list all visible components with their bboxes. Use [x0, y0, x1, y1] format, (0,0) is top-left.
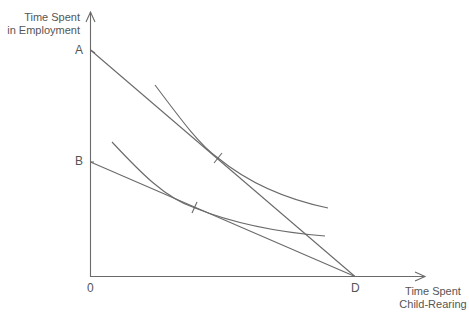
indifference-curve-upper: [155, 85, 328, 208]
origin-label: 0: [87, 282, 94, 295]
point-label-a: A: [75, 44, 83, 57]
indifference-curve-diagram: Time Spent in Employment A B 0 D Time Sp…: [0, 0, 469, 319]
y-axis-label: Time Spent in Employment: [4, 11, 80, 37]
x-axis-label-line1: Time Spent: [398, 285, 468, 298]
diagram-canvas: [0, 0, 469, 319]
budget-line-bd: [91, 162, 356, 277]
y-axis-label-line2: in Employment: [4, 24, 80, 37]
point-label-b: B: [75, 155, 83, 168]
indifference-curve-lower: [112, 142, 325, 236]
x-axis-label-line2: Child-Rearing: [398, 298, 468, 311]
budget-line-ad: [91, 50, 356, 277]
x-axis-label: Time Spent Child-Rearing: [398, 285, 468, 311]
point-label-d: D: [351, 282, 360, 295]
y-axis-label-line1: Time Spent: [4, 11, 80, 24]
